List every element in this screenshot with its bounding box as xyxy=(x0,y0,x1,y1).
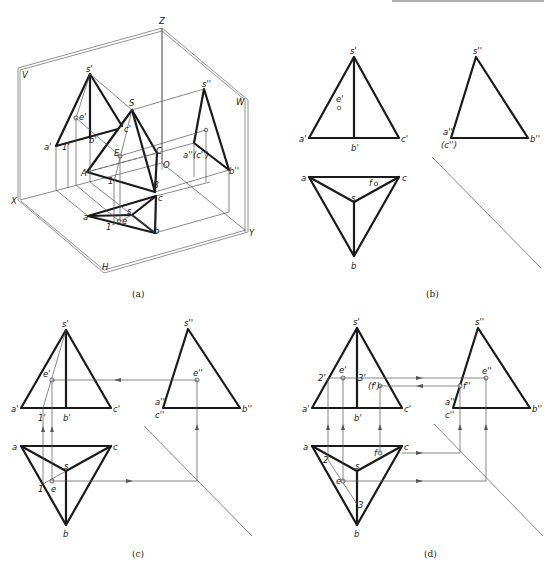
svg-text:a': a' xyxy=(11,404,19,414)
svg-text:b: b xyxy=(354,529,359,539)
front-view-c xyxy=(21,330,111,408)
svg-text:a: a xyxy=(303,442,308,452)
svg-text:c: c xyxy=(404,442,409,452)
svg-text:a'': a'' xyxy=(445,397,455,407)
svg-text:b': b' xyxy=(89,135,97,145)
caption-a: (a) xyxy=(132,289,144,299)
svg-text:a: a xyxy=(83,212,88,222)
svg-text:e: e xyxy=(336,476,341,486)
miter-line-b xyxy=(432,157,541,268)
svg-text:A: A xyxy=(80,168,87,178)
svg-text:X: X xyxy=(10,196,17,206)
miter-line-d xyxy=(434,424,543,536)
svg-text:b: b xyxy=(351,261,356,271)
svg-text:s: s xyxy=(355,461,360,471)
svg-text:s: s xyxy=(127,206,132,216)
caption-c: (c) xyxy=(132,549,144,559)
svg-text:E: E xyxy=(114,148,120,158)
svg-text:b'': b'' xyxy=(229,166,239,176)
svg-text:e: e xyxy=(51,484,56,494)
svg-text:e'': e'' xyxy=(193,368,203,378)
svg-text:e': e' xyxy=(79,112,87,122)
svg-text:3': 3' xyxy=(358,373,366,383)
labels-d: s' a' b' c' e' 2' 3' (f') s'' a'' c'' b'… xyxy=(302,317,542,539)
panel-c: s' a' b' c' e' 1' s'' a'' c'' b'' e'' a … xyxy=(11,318,252,559)
top-view-b xyxy=(309,177,399,256)
svg-text:e': e' xyxy=(339,365,347,375)
svg-text:V: V xyxy=(22,70,29,80)
svg-text:a''(c''): a''(c'') xyxy=(183,150,209,160)
svg-text:c': c' xyxy=(113,404,120,414)
svg-text:s'': s'' xyxy=(473,46,482,56)
svg-text:b': b' xyxy=(354,413,362,423)
svg-text:c': c' xyxy=(404,404,411,414)
svg-text:C: C xyxy=(156,146,162,156)
svg-text:s': s' xyxy=(62,319,69,329)
point-f-b xyxy=(374,182,378,186)
side-view-b xyxy=(451,57,528,138)
svg-text:b': b' xyxy=(351,143,359,153)
svg-text:b'': b'' xyxy=(532,404,542,414)
top-projection-a xyxy=(88,196,156,233)
svg-text:e: e xyxy=(122,216,127,226)
svg-text:s'': s'' xyxy=(475,317,484,327)
projection-figure: V W H Z X Y O S A B C E c' s' a' b' e' 1… xyxy=(0,0,552,569)
svg-text:s: s xyxy=(64,461,69,471)
svg-text:c': c' xyxy=(124,124,131,134)
svg-text:a': a' xyxy=(299,134,307,144)
svg-text:c: c xyxy=(158,193,163,203)
labels-b: s' a' b' c' e' s'' a'' (c'') b'' a c s b… xyxy=(299,46,540,271)
svg-text:s'': s'' xyxy=(202,79,211,89)
svg-text:W: W xyxy=(236,97,245,107)
svg-text:a: a xyxy=(301,173,306,183)
svg-text:O: O xyxy=(163,160,170,170)
svg-text:1: 1 xyxy=(38,484,43,494)
svg-text:c': c' xyxy=(401,134,408,144)
svg-text:1: 1 xyxy=(106,222,111,232)
svg-text:e': e' xyxy=(336,94,344,104)
plane-h-frame xyxy=(18,200,248,273)
svg-text:c'': c'' xyxy=(155,410,164,420)
panel-a: V W H Z X Y O S A B C E c' s' a' b' e' 1… xyxy=(10,16,255,299)
svg-text:b: b xyxy=(63,529,68,539)
svg-text:a': a' xyxy=(44,142,52,152)
caption-d: (d) xyxy=(424,549,437,559)
panel-d: s' a' b' c' e' 2' 3' (f') s'' a'' c'' b'… xyxy=(302,317,543,559)
svg-text:b: b xyxy=(154,226,159,236)
svg-text:3: 3 xyxy=(358,500,363,510)
svg-text:c: c xyxy=(113,442,118,452)
svg-text:2': 2' xyxy=(318,373,326,383)
svg-text:e'': e'' xyxy=(482,366,492,376)
labels-c: s' a' b' c' e' 1' s'' a'' c'' b'' e'' a … xyxy=(11,318,252,539)
svg-text:a'': a'' xyxy=(155,397,165,407)
point-e-prime-b xyxy=(337,106,341,110)
svg-text:s': s' xyxy=(350,46,357,56)
svg-text:b'': b'' xyxy=(530,134,540,144)
svg-text:s: s xyxy=(351,193,356,203)
svg-text:B: B xyxy=(153,180,159,190)
svg-text:e': e' xyxy=(43,369,51,379)
svg-text:(f'): (f') xyxy=(368,381,380,391)
panel-b: s' a' b' c' e' s'' a'' (c'') b'' a c s b… xyxy=(299,46,541,299)
svg-text:a'': a'' xyxy=(443,127,453,137)
svg-text:2: 2 xyxy=(323,455,328,465)
svg-text:s'': s'' xyxy=(184,318,193,328)
svg-text:s': s' xyxy=(86,64,93,74)
front-view-b xyxy=(309,57,399,138)
svg-text:b'': b'' xyxy=(242,404,252,414)
svg-text:s': s' xyxy=(353,317,360,327)
svg-text:a': a' xyxy=(302,404,310,414)
side-projection-a xyxy=(194,89,229,182)
svg-text:Z: Z xyxy=(158,16,165,26)
svg-text:S: S xyxy=(129,98,135,108)
svg-text:f: f xyxy=(369,178,374,188)
svg-text:1': 1' xyxy=(62,142,70,152)
top-view-c xyxy=(21,446,111,525)
front-view-d xyxy=(312,328,402,408)
svg-text:a: a xyxy=(12,442,17,452)
labels-a: V W H Z X Y O S A B C E c' s' a' b' e' 1… xyxy=(10,16,255,272)
caption-b: (b) xyxy=(426,289,439,299)
svg-text:1': 1' xyxy=(38,413,46,423)
svg-text:b': b' xyxy=(63,413,71,423)
svg-text:c: c xyxy=(402,173,407,183)
